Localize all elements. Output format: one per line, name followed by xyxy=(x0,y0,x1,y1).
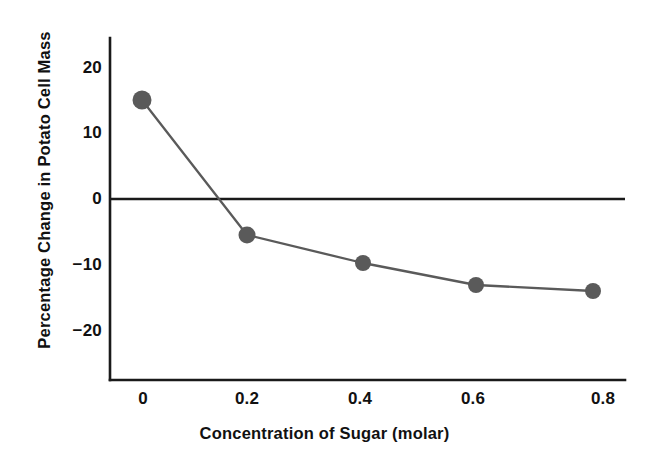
x-axis-label: Concentration of Sugar (molar) xyxy=(0,424,649,443)
data-point-marker xyxy=(468,277,484,293)
x-tick-label-0p6: 0.6 xyxy=(461,389,485,409)
y-axis-label-container: Percentage Change in Potato Cell Mass xyxy=(29,0,59,380)
data-point-marker xyxy=(239,227,256,244)
data-point-marker xyxy=(133,91,152,110)
x-tick-label-0p2: 0.2 xyxy=(235,389,259,409)
data-point-marker xyxy=(355,255,371,271)
x-tick-label-0p4: 0.4 xyxy=(348,389,372,409)
chart-figure: 20 10 0 −10 −20 0 0.2 0.4 0.6 0.8 Concen… xyxy=(0,0,649,462)
y-axis-label: Percentage Change in Potato Cell Mass xyxy=(35,31,53,348)
x-tick-label-0p8: 0.8 xyxy=(591,389,615,409)
x-tick-label-0: 0 xyxy=(138,389,148,409)
data-point-marker xyxy=(585,283,601,299)
